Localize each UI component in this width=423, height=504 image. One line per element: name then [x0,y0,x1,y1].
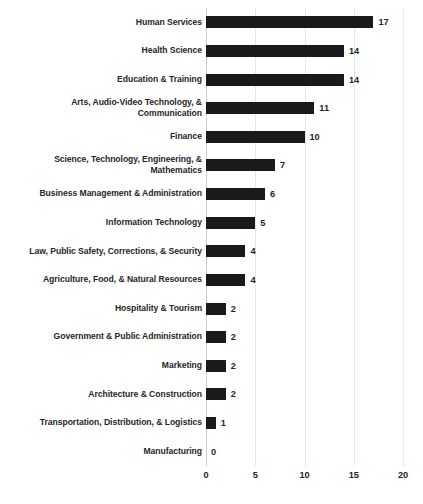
category-label: Architecture & Construction [6,389,202,401]
bar-value-label: 11 [319,102,329,114]
category-label: Agriculture, Food, & Natural Resources [6,274,202,286]
bar-row[interactable]: Finance10 [0,123,423,152]
category-label: Education & Training [6,74,202,86]
category-label: Science, Technology, Engineering, & Math… [6,154,202,177]
bar-wrapper: 2 [206,360,236,372]
bar[interactable] [206,303,226,315]
category-label: Manufacturing [6,446,202,458]
bar-value-label: 14 [349,45,359,57]
bar-wrapper: 7 [206,159,285,171]
bar-row[interactable]: Business Management & Administration6 [0,180,423,209]
bar-value-label: 1 [221,417,226,429]
x-tick-label: 15 [349,470,359,480]
category-label: Marketing [6,360,202,372]
category-label: Finance [6,131,202,143]
bar-row[interactable]: Human Services17 [0,8,423,37]
x-tick-label: 10 [299,470,309,480]
bar-row[interactable]: Marketing2 [0,352,423,381]
bar-row[interactable]: Information Technology5 [0,208,423,237]
bar[interactable] [206,131,305,143]
bar-wrapper: 4 [206,274,256,286]
bar-value-label: 6 [270,188,275,200]
bar-row[interactable]: Education & Training14 [0,65,423,94]
bar-value-label: 5 [260,217,265,229]
bar-value-label: 2 [231,303,236,315]
bar-row[interactable]: Law, Public Safety, Corrections, & Secur… [0,237,423,266]
bar-wrapper: 17 [206,16,389,28]
x-axis: 05101520 [206,470,403,486]
bar[interactable] [206,388,226,400]
bar[interactable] [206,217,255,229]
bar-value-label: 0 [211,446,216,458]
bar-wrapper: 14 [206,74,359,86]
bar-value-label: 2 [231,388,236,400]
bar-wrapper: 10 [206,131,320,143]
bar[interactable] [206,274,245,286]
bar-row[interactable]: Transportation, Distribution, & Logistic… [0,409,423,438]
bar-row[interactable]: Arts, Audio-Video Technology, & Communic… [0,94,423,123]
bar-wrapper: 2 [206,388,236,400]
bar-wrapper: 6 [206,188,275,200]
bar[interactable] [206,74,344,86]
bar-row[interactable]: Architecture & Construction2 [0,380,423,409]
bar-wrapper: 5 [206,217,265,229]
category-label: Government & Public Administration [6,331,202,343]
x-tick-label: 0 [203,470,208,480]
category-label: Information Technology [6,217,202,229]
category-label: Health Science [6,45,202,57]
bar[interactable] [206,102,314,114]
bar-value-label: 17 [378,16,388,28]
category-label: Hospitality & Tourism [6,303,202,315]
bar-value-label: 4 [250,245,255,257]
bar-wrapper: 1 [206,417,226,429]
bar[interactable] [206,159,275,171]
category-label: Law, Public Safety, Corrections, & Secur… [6,246,202,258]
bar[interactable] [206,45,344,57]
bar-row[interactable]: Health Science14 [0,37,423,66]
bar-wrapper: 2 [206,331,236,343]
bar[interactable] [206,16,373,28]
bar[interactable] [206,188,265,200]
bar-row[interactable]: Manufacturing0 [0,437,423,466]
bar-value-label: 10 [310,131,320,143]
bar[interactable] [206,331,226,343]
bar-value-label: 2 [231,331,236,343]
bar-row[interactable]: Science, Technology, Engineering, & Math… [0,151,423,180]
bar-wrapper: 0 [206,446,216,458]
bar-row[interactable]: Agriculture, Food, & Natural Resources4 [0,266,423,295]
x-tick-label: 20 [398,470,408,480]
bar-value-label: 2 [231,360,236,372]
category-label: Human Services [6,17,202,29]
bar-wrapper: 4 [206,245,256,257]
bar-row[interactable]: Hospitality & Tourism2 [0,294,423,323]
category-label: Transportation, Distribution, & Logistic… [6,417,202,429]
bar-rows: Human Services17Health Science14Educatio… [0,8,423,466]
bar-wrapper: 11 [206,102,329,114]
bar[interactable] [206,417,216,429]
bar-wrapper: 14 [206,45,359,57]
bar-wrapper: 2 [206,303,236,315]
bar-value-label: 14 [349,74,359,86]
bar-value-label: 7 [280,159,285,171]
bar-chart: Human Services17Health Science14Educatio… [0,0,423,504]
bar[interactable] [206,360,226,372]
category-label: Arts, Audio-Video Technology, & Communic… [6,97,202,120]
category-label: Business Management & Administration [6,188,202,200]
x-tick-label: 5 [253,470,258,480]
bar-value-label: 4 [250,274,255,286]
bar[interactable] [206,245,245,257]
bar-row[interactable]: Government & Public Administration2 [0,323,423,352]
